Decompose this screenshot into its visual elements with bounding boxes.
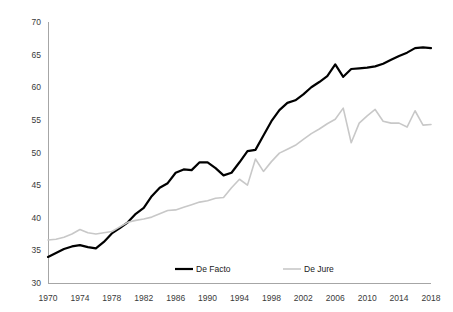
- x-tick-label: 1998: [262, 293, 281, 303]
- x-tick-label: 1978: [102, 293, 121, 303]
- x-axis-tick-labels: 1970197419781982198619901994199820022006…: [39, 293, 441, 303]
- y-tick-label: 50: [32, 148, 42, 158]
- x-tick-label: 2006: [326, 293, 345, 303]
- series-line-de-facto: [48, 47, 431, 256]
- y-axis-tick-labels: 303540455055606570: [32, 17, 42, 288]
- series-lines: [48, 47, 431, 256]
- series-line-de-jure: [48, 108, 431, 240]
- y-tick-label: 35: [32, 245, 42, 255]
- x-tick-label: 1990: [198, 293, 217, 303]
- chart-legend: De FactoDe Jure: [175, 264, 334, 274]
- legend-label-de-facto: De Facto: [196, 264, 231, 274]
- chart-container: 303540455055606570 197019741978198219861…: [0, 0, 453, 312]
- line-chart: 303540455055606570 197019741978198219861…: [0, 0, 453, 312]
- y-tick-label: 40: [32, 213, 42, 223]
- y-tick-label: 55: [32, 115, 42, 125]
- y-tick-label: 30: [32, 278, 42, 288]
- x-tick-label: 1986: [166, 293, 185, 303]
- y-tick-label: 70: [32, 17, 42, 27]
- x-tick-label: 2002: [294, 293, 313, 303]
- y-tick-label: 60: [32, 82, 42, 92]
- x-tick-label: 2014: [390, 293, 409, 303]
- legend-label-de-jure: De Jure: [304, 264, 334, 274]
- x-tick-label: 1994: [230, 293, 249, 303]
- x-tick-label: 1974: [70, 293, 89, 303]
- y-tick-label: 65: [32, 50, 42, 60]
- x-tick-label: 2010: [358, 293, 377, 303]
- x-tick-label: 1982: [134, 293, 153, 303]
- y-tick-label: 45: [32, 180, 42, 190]
- x-tick-label: 2018: [422, 293, 441, 303]
- x-tick-label: 1970: [39, 293, 58, 303]
